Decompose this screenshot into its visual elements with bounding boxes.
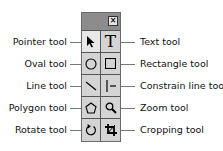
rotate-icon bbox=[85, 124, 97, 136]
leader-line bbox=[70, 130, 81, 131]
label-polygon-tool: Polygon tool bbox=[9, 102, 67, 113]
constrain-line-tool-button[interactable] bbox=[101, 75, 120, 97]
palette-title-bar[interactable]: × bbox=[82, 13, 120, 31]
rotate-tool-button[interactable] bbox=[82, 119, 101, 141]
line-icon bbox=[85, 81, 97, 91]
leader-line bbox=[121, 130, 135, 131]
tool-palette: × T bbox=[81, 12, 121, 142]
label-constrain-line-tool: Constrain line tool bbox=[140, 80, 223, 91]
polygon-icon bbox=[85, 102, 97, 114]
label-rectangle-tool: Rectangle tool bbox=[140, 58, 208, 69]
close-icon: × bbox=[110, 16, 117, 25]
leader-line bbox=[70, 64, 81, 65]
rectangle-icon bbox=[105, 58, 116, 69]
leader-line bbox=[121, 86, 135, 87]
rectangle-tool-button[interactable] bbox=[101, 53, 120, 75]
tool-grid: T bbox=[82, 31, 120, 141]
pointer-icon bbox=[86, 35, 96, 48]
text-tool-button[interactable]: T bbox=[101, 31, 120, 53]
pointer-tool-button[interactable] bbox=[82, 31, 101, 53]
label-text-tool: Text tool bbox=[140, 36, 180, 47]
label-rotate-tool: Rotate tool bbox=[15, 124, 67, 135]
leader-line bbox=[70, 86, 81, 87]
cropping-tool-button[interactable] bbox=[101, 119, 120, 141]
leader-line bbox=[70, 108, 81, 109]
label-cropping-tool: Cropping tool bbox=[140, 124, 204, 135]
oval-tool-button[interactable] bbox=[82, 53, 101, 75]
line-tool-button[interactable] bbox=[82, 75, 101, 97]
text-icon: T bbox=[105, 33, 116, 50]
leader-line bbox=[121, 108, 135, 109]
leader-line bbox=[121, 42, 135, 43]
polygon-tool-button[interactable] bbox=[82, 97, 101, 119]
label-oval-tool: Oval tool bbox=[24, 58, 67, 69]
label-line-tool: Line tool bbox=[26, 80, 67, 91]
close-button[interactable]: × bbox=[108, 16, 118, 26]
leader-line bbox=[121, 64, 135, 65]
label-zoom-tool: Zoom tool bbox=[140, 102, 188, 113]
leader-line bbox=[70, 42, 81, 43]
constrain-line-icon bbox=[105, 79, 117, 93]
zoom-tool-button[interactable] bbox=[101, 97, 120, 119]
label-pointer-tool: Pointer tool bbox=[13, 36, 67, 47]
zoom-icon bbox=[105, 102, 117, 114]
oval-icon bbox=[85, 58, 97, 70]
crop-icon bbox=[105, 124, 117, 136]
